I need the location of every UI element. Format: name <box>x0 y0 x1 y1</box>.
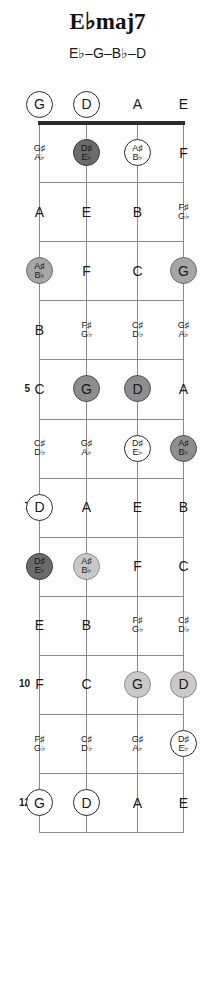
note-marker[interactable]: D♯E♭ <box>124 435 151 462</box>
fret-wire-8 <box>39 596 184 597</box>
note-label: G♭ <box>81 330 92 339</box>
note-marker[interactable]: C <box>72 669 102 699</box>
note-marker[interactable]: C♯D♭ <box>123 315 153 345</box>
note-label: D <box>81 796 91 810</box>
note-marker[interactable]: A <box>25 197 55 227</box>
note-label: D <box>81 97 91 111</box>
note-label: A <box>133 97 142 111</box>
note-label: C <box>81 677 91 691</box>
note-label: E <box>35 618 44 632</box>
note-label: E <box>179 97 188 111</box>
note-label: B♭ <box>34 271 44 280</box>
note-label: B♭ <box>81 566 91 575</box>
note-marker[interactable]: F <box>123 551 153 581</box>
note-marker[interactable]: G <box>124 671 151 698</box>
note-marker[interactable]: A <box>123 89 153 119</box>
note-marker[interactable]: D <box>73 91 100 118</box>
note-label: D♭ <box>34 448 45 457</box>
fret-wire-10 <box>39 714 184 715</box>
note-marker[interactable]: D <box>170 671 197 698</box>
note-label: A♭ <box>132 744 142 753</box>
note-marker[interactable]: C <box>25 374 55 404</box>
note-marker[interactable]: C♯D♭ <box>72 729 102 759</box>
note-label: C <box>178 559 188 573</box>
note-marker[interactable]: D♯E♭ <box>170 730 197 757</box>
note-label: A♭ <box>34 153 44 162</box>
nut <box>38 121 185 125</box>
note-marker[interactable]: G <box>73 375 100 402</box>
note-label: B <box>133 205 142 219</box>
note-label: F <box>35 677 44 691</box>
note-marker[interactable]: G♯A♭ <box>123 729 153 759</box>
note-label: D♭ <box>81 744 92 753</box>
note-marker[interactable]: A♯B♭ <box>73 553 100 580</box>
note-label: F <box>133 559 142 573</box>
note-marker[interactable]: A♯B♭ <box>124 139 151 166</box>
note-label: B <box>35 323 44 337</box>
note-marker[interactable]: E <box>169 788 199 818</box>
note-marker[interactable]: F <box>169 138 199 168</box>
note-marker[interactable]: D♯E♭ <box>73 139 100 166</box>
note-marker[interactable]: B <box>25 315 55 345</box>
note-label: E♭ <box>81 153 91 162</box>
note-marker[interactable]: D <box>124 375 151 402</box>
note-marker[interactable]: C <box>123 256 153 286</box>
note-marker[interactable]: A♯B♭ <box>170 435 197 462</box>
note-label: G <box>178 264 189 278</box>
note-marker[interactable]: A <box>123 788 153 818</box>
note-marker[interactable]: G♯A♭ <box>72 433 102 463</box>
note-marker[interactable]: B <box>123 197 153 227</box>
note-label: G♭ <box>34 744 45 753</box>
note-marker[interactable]: D <box>73 789 100 816</box>
note-marker[interactable]: G♯A♭ <box>25 138 55 168</box>
note-label: G♭ <box>132 625 143 634</box>
note-label: D♭ <box>132 330 143 339</box>
fret-wire-12 <box>39 832 184 833</box>
note-label: B <box>82 618 91 632</box>
fretboard: 571012GDAEG♯A♭D♯E♭A♯B♭FAEBF♯G♭A♯B♭FCGBF♯… <box>0 0 215 988</box>
note-label: G <box>34 97 45 111</box>
note-marker[interactable]: E <box>169 89 199 119</box>
note-marker[interactable]: F <box>25 669 55 699</box>
note-label: C <box>132 264 142 278</box>
note-marker[interactable]: F♯G♭ <box>72 315 102 345</box>
fret-wire-11 <box>39 773 184 774</box>
note-label: D♭ <box>178 625 189 634</box>
note-label: B♭ <box>132 153 142 162</box>
note-label: A♭ <box>81 448 91 457</box>
note-label: A <box>133 796 142 810</box>
note-marker[interactable]: G♯A♭ <box>169 315 199 345</box>
note-label: E <box>179 796 188 810</box>
note-marker[interactable]: B <box>169 492 199 522</box>
chord-diagram-page: E♭maj7 E♭–G–B♭–D 571012GDAEG♯A♭D♯E♭A♯B♭F… <box>0 0 215 988</box>
note-marker[interactable]: E <box>72 197 102 227</box>
note-marker[interactable]: C <box>169 551 199 581</box>
note-label: F <box>179 146 188 160</box>
fret-wire-7 <box>39 537 184 538</box>
note-marker[interactable]: D♯E♭ <box>26 553 53 580</box>
note-label: G♭ <box>178 212 189 221</box>
note-marker[interactable]: F♯G♭ <box>123 610 153 640</box>
note-marker[interactable]: B <box>72 610 102 640</box>
note-label: G <box>132 677 143 691</box>
note-marker[interactable]: G <box>170 257 197 284</box>
fret-wire-4 <box>39 359 184 360</box>
note-marker[interactable]: G <box>26 91 53 118</box>
fret-wire-1 <box>39 182 184 183</box>
note-marker[interactable]: F♯G♭ <box>169 197 199 227</box>
note-marker[interactable]: C♯D♭ <box>25 433 55 463</box>
note-marker[interactable]: G <box>26 789 53 816</box>
note-marker[interactable]: A♯B♭ <box>26 257 53 284</box>
note-marker[interactable]: D <box>26 494 53 521</box>
note-marker[interactable]: E <box>123 492 153 522</box>
note-label: C <box>34 382 44 396</box>
note-marker[interactable]: C♯D♭ <box>169 610 199 640</box>
note-label: E♭ <box>34 566 44 575</box>
note-marker[interactable]: A <box>72 492 102 522</box>
note-label: A♭ <box>178 330 188 339</box>
note-marker[interactable]: E <box>25 610 55 640</box>
note-label: D <box>178 677 188 691</box>
note-marker[interactable]: A <box>169 374 199 404</box>
note-marker[interactable]: F♯G♭ <box>25 729 55 759</box>
note-marker[interactable]: F <box>72 256 102 286</box>
